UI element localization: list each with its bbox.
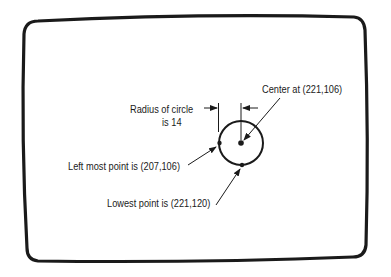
lowest-label: Lowest point is (221,120) <box>107 197 210 209</box>
leftmost-label: Left most point is (207,106) <box>68 160 180 172</box>
radius-label-line1: Radius of circle <box>130 103 193 115</box>
center-label: Center at (221,106) <box>262 83 342 95</box>
leftmost-leader-arrow <box>188 147 216 165</box>
diagram-svg <box>0 0 391 277</box>
radius-label-line2: is 14 <box>162 116 182 128</box>
screen-outline <box>23 16 367 262</box>
lowest-point <box>240 163 244 167</box>
leftmost-point <box>217 141 221 145</box>
diagram-canvas: Radius of circle is 14 Center at (221,10… <box>0 0 391 277</box>
center-point <box>238 140 244 146</box>
lowest-leader-arrow <box>216 169 240 205</box>
